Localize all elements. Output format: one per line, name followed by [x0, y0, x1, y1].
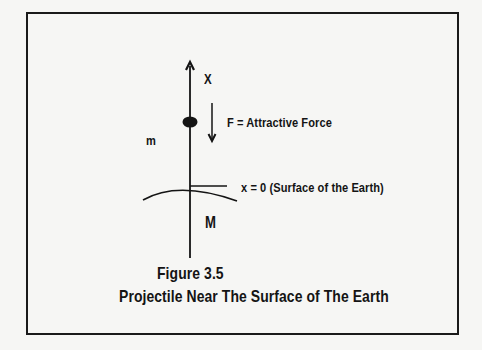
- surface-label: x = 0 (Surface of the Earth): [241, 180, 384, 195]
- figure-number: Figure 3.5: [157, 264, 224, 284]
- mass-point: [183, 117, 198, 128]
- x-axis-label: X: [204, 71, 212, 87]
- figure-caption: Projectile Near The Surface of The Earth: [119, 287, 389, 307]
- mass-label: m: [146, 133, 156, 148]
- earth-mass-label: M: [205, 214, 216, 232]
- force-label: F = Attractive Force: [227, 115, 332, 130]
